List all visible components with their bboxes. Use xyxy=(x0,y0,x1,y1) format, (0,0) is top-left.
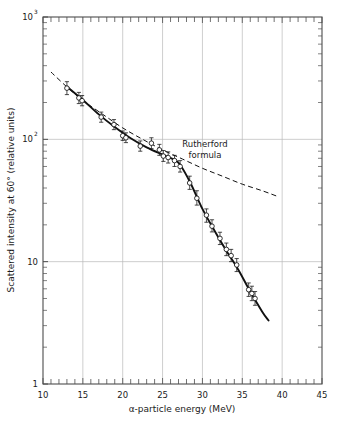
data-marker-circle xyxy=(157,148,162,153)
x-tick-label: 25 xyxy=(157,390,168,400)
data-marker-circle xyxy=(187,181,192,186)
y-tick-label: 1 xyxy=(33,379,38,389)
data-marker-circle xyxy=(65,86,70,91)
data-marker-circle xyxy=(218,236,223,241)
y-tick-label: 10 xyxy=(27,257,38,267)
y-tick-exponent: 3 xyxy=(34,9,38,15)
rutherford-annotation-line1: Rutherford xyxy=(182,139,227,149)
data-marker-circle xyxy=(210,224,215,229)
data-marker-circle xyxy=(112,122,117,127)
data-marker-circle xyxy=(234,263,239,268)
data-marker-circle xyxy=(224,247,229,252)
y-tick-mantissa: 10 xyxy=(22,12,33,22)
rutherford-annotation-line2: formula xyxy=(189,150,222,160)
scatter-plot: 1015202530354045 110102103 Rutherford fo… xyxy=(0,0,337,423)
y-tick-mantissa: 10 xyxy=(22,134,33,144)
rutherford-annotation: Rutherford formula xyxy=(182,139,227,160)
x-axis-label: α-particle energy (MeV) xyxy=(129,404,236,414)
data-marker-circle xyxy=(204,213,209,218)
data-marker-circle xyxy=(138,144,143,149)
data-marker-circle xyxy=(124,135,129,140)
data-marker-circle xyxy=(149,141,154,146)
x-tick-label: 35 xyxy=(237,390,248,400)
x-tick-label: 10 xyxy=(38,390,49,400)
x-tick-label: 15 xyxy=(77,390,88,400)
data-marker-circle xyxy=(80,98,85,103)
data-marker-circle xyxy=(99,115,104,120)
data-marker-circle xyxy=(195,196,200,201)
data-marker-circle xyxy=(253,296,258,301)
y-tick-exponent: 2 xyxy=(34,131,38,137)
x-tick-label: 40 xyxy=(277,390,288,400)
y-axis-label: Scattered intensity at 60° (relative uni… xyxy=(6,108,16,293)
x-tick-label: 45 xyxy=(317,390,328,400)
data-marker-circle xyxy=(172,158,177,163)
data-marker-circle xyxy=(178,164,183,169)
data-marker-circle xyxy=(161,154,166,159)
data-marker-circle xyxy=(166,155,171,160)
x-tick-label: 20 xyxy=(117,390,128,400)
data-marker-circle xyxy=(229,253,234,258)
plot-background xyxy=(0,0,337,423)
y-tick-mantissa: 10 xyxy=(27,257,38,267)
x-tick-label: 30 xyxy=(197,390,208,400)
y-tick-mantissa: 1 xyxy=(33,379,38,389)
figure-container: 1015202530354045 110102103 Rutherford fo… xyxy=(0,0,337,423)
